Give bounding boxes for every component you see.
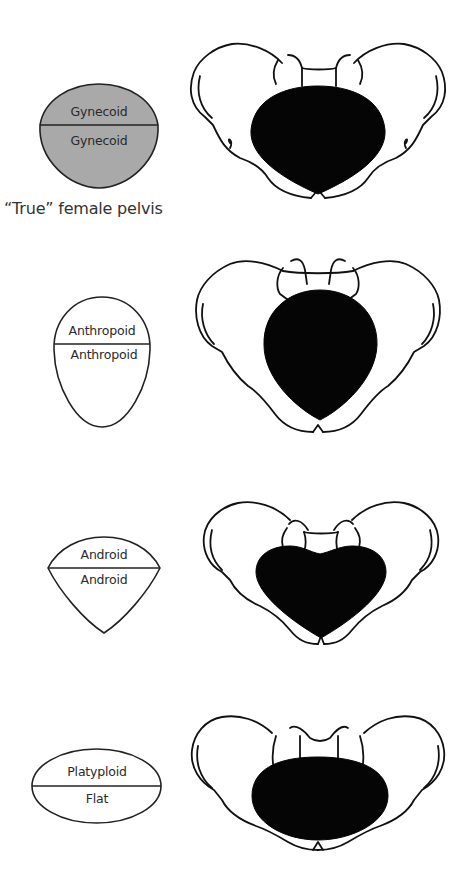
android-pelvis-drawing bbox=[0, 480, 471, 670]
row-platypelloid: Platyploid Flat bbox=[0, 700, 471, 876]
row-android: Android Android bbox=[0, 480, 471, 670]
row-gynecoid: Gynecoid Gynecoid “True” female pelvis bbox=[0, 0, 471, 230]
platypelloid-pelvis-drawing bbox=[0, 700, 471, 876]
anthropoid-pelvis-drawing bbox=[0, 240, 471, 450]
row-anthropoid: Anthropoid Anthropoid bbox=[0, 240, 471, 450]
pelvis-types-figure: Gynecoid Gynecoid “True” female pelvis bbox=[0, 0, 471, 876]
gynecoid-pelvis-drawing bbox=[0, 0, 471, 230]
